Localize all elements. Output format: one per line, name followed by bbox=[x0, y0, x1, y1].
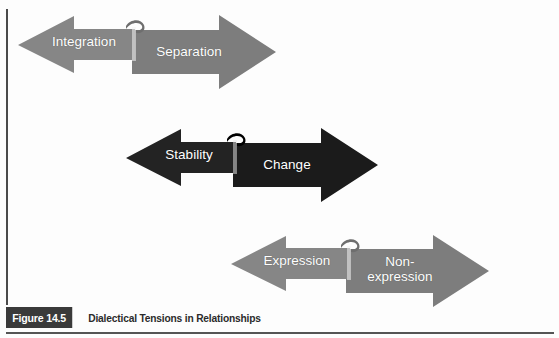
stability-arrow-shape bbox=[123, 125, 391, 205]
figure-caption-bar: Figure 14.5 Dialectical Tensions in Rela… bbox=[6, 307, 554, 328]
figure-container: Integration Separation Stability Change … bbox=[0, 0, 559, 338]
figure-number-badge: Figure 14.5 bbox=[6, 307, 72, 328]
integration-arrow-shape bbox=[14, 12, 284, 92]
expression-arrow-shape bbox=[228, 233, 500, 309]
figure-left-rule bbox=[6, 9, 8, 305]
figure-bottom-rule bbox=[6, 332, 554, 334]
arrow-pair-integration-separation: Integration Separation bbox=[14, 12, 284, 92]
arrow-pair-expression-nonexpression: Expression Non- expression bbox=[228, 233, 500, 309]
arrow-pair-stability-change: Stability Change bbox=[123, 125, 391, 205]
figure-caption-title: Dialectical Tensions in Relationships bbox=[78, 307, 521, 328]
